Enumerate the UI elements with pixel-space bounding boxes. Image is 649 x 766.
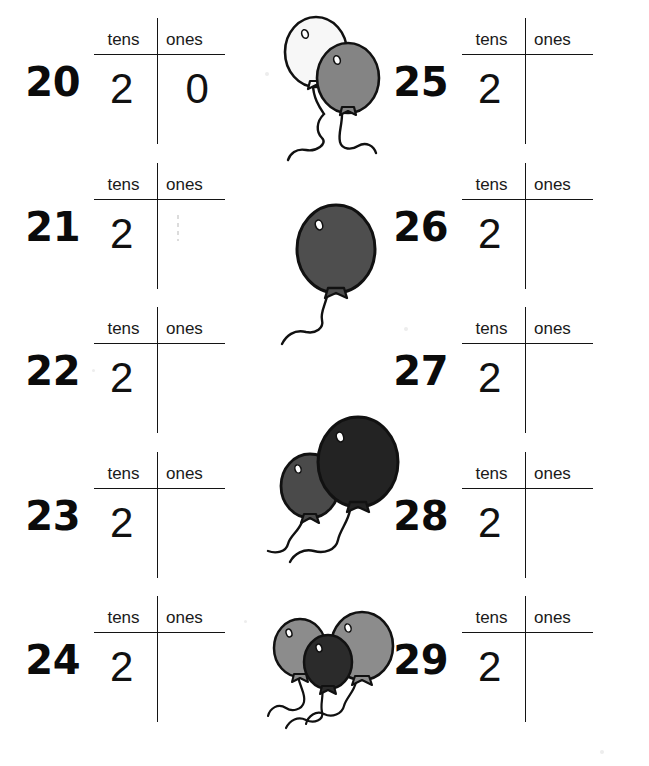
ones-header: ones	[527, 316, 593, 342]
ones-answer[interactable]	[528, 492, 594, 558]
place-value-table: tens ones 2	[462, 596, 593, 722]
place-value-table: tens ones 2	[462, 163, 593, 289]
balloon-trio-illustration	[258, 608, 408, 746]
scan-speckle	[92, 369, 95, 372]
ones-answer[interactable]	[528, 203, 594, 269]
header-rule	[94, 488, 225, 489]
place-value-answers: 2	[462, 58, 593, 124]
place-value-headers: tens ones	[94, 27, 225, 53]
tens-header: tens	[94, 316, 159, 342]
ones-header: ones	[527, 172, 593, 198]
tens-header: tens	[462, 461, 527, 487]
ones-header: ones	[159, 461, 225, 487]
scan-speckle	[244, 620, 247, 623]
scan-speckle	[404, 327, 408, 331]
header-rule	[462, 199, 593, 200]
ones-answer[interactable]	[160, 492, 226, 558]
ones-answer[interactable]	[160, 203, 226, 269]
ones-answer[interactable]	[528, 347, 594, 413]
place-value-headers: tens ones	[94, 316, 225, 342]
place-value-answers: 2	[94, 636, 225, 702]
tens-answer[interactable]: 2	[94, 347, 160, 413]
place-value-table: tens ones 2	[94, 452, 225, 578]
tens-answer[interactable]: 2	[462, 58, 528, 124]
exercise-number: 24	[4, 596, 80, 680]
tens-header: tens	[94, 172, 159, 198]
exercise-number: 22	[4, 307, 80, 391]
tens-answer[interactable]: 2	[94, 492, 160, 558]
tens-answer[interactable]: 2	[94, 58, 160, 124]
ones-answer[interactable]	[160, 636, 226, 702]
tens-answer[interactable]: 2	[462, 347, 528, 413]
tens-header: tens	[462, 172, 527, 198]
place-value-table: tens ones 2	[462, 452, 593, 578]
place-value-table: tens ones 2	[462, 307, 593, 433]
place-value-answers: 2 0	[94, 58, 225, 124]
ones-answer[interactable]	[528, 58, 594, 124]
tens-answer[interactable]: 2	[462, 636, 528, 702]
tens-header: tens	[94, 461, 159, 487]
place-value-table: tens ones 2	[94, 163, 225, 289]
tens-answer[interactable]: 2	[462, 492, 528, 558]
ones-header: ones	[159, 172, 225, 198]
exercise-number: 23	[4, 452, 80, 536]
ones-header: ones	[159, 27, 225, 53]
place-value-headers: tens ones	[462, 172, 593, 198]
place-value-answers: 2	[94, 203, 225, 269]
ones-answer[interactable]: 0	[160, 58, 226, 124]
header-rule	[94, 343, 225, 344]
worksheet-page: 20 tens ones 2 0 21 tens ones 2	[0, 0, 649, 766]
balloon-pair-white-gray-illustration	[272, 10, 402, 165]
exercise-number: 20	[4, 18, 80, 102]
header-rule	[94, 54, 225, 55]
place-value-answers: 2	[94, 347, 225, 413]
ones-answer[interactable]	[528, 636, 594, 702]
tens-header: tens	[94, 27, 159, 53]
tens-answer[interactable]: 2	[462, 203, 528, 269]
scan-speckle	[265, 72, 269, 76]
balloon-single-dark-gray-illustration	[272, 192, 407, 360]
place-value-answers: 2	[462, 203, 593, 269]
tens-header: tens	[462, 27, 527, 53]
ones-header: ones	[527, 27, 593, 53]
exercise-item: 25 tens ones 2	[372, 18, 593, 144]
ones-answer[interactable]	[160, 347, 226, 413]
header-rule	[94, 632, 225, 633]
place-value-headers: tens ones	[462, 605, 593, 631]
exercise-item: 24 tens ones 2	[4, 596, 225, 722]
ones-header: ones	[527, 461, 593, 487]
ones-header: ones	[527, 605, 593, 631]
tens-header: tens	[462, 605, 527, 631]
tens-answer[interactable]: 2	[94, 636, 160, 702]
place-value-answers: 2	[94, 492, 225, 558]
tens-header: tens	[462, 316, 527, 342]
header-rule	[462, 54, 593, 55]
place-value-table: tens ones 2	[94, 307, 225, 433]
exercise-number: 21	[4, 163, 80, 247]
place-value-headers: tens ones	[462, 461, 593, 487]
ones-header: ones	[159, 605, 225, 631]
exercise-item: 22 tens ones 2	[4, 307, 225, 433]
exercise-item: 21 tens ones 2	[4, 163, 225, 289]
place-value-headers: tens ones	[94, 605, 225, 631]
ones-header: ones	[159, 316, 225, 342]
place-value-headers: tens ones	[462, 316, 593, 342]
place-value-table: tens ones 2	[462, 18, 593, 144]
place-value-answers: 2	[462, 347, 593, 413]
place-value-headers: tens ones	[94, 461, 225, 487]
tens-answer[interactable]: 2	[94, 203, 160, 269]
place-value-headers: tens ones	[94, 172, 225, 198]
header-rule	[462, 343, 593, 344]
scan-speckle	[600, 750, 604, 754]
place-value-headers: tens ones	[462, 27, 593, 53]
balloon-pair-gray-black-illustration	[266, 404, 411, 589]
exercise-item: 20 tens ones 2 0	[4, 18, 225, 144]
exercise-item: 23 tens ones 2	[4, 452, 225, 578]
tens-header: tens	[94, 605, 159, 631]
header-rule	[462, 632, 593, 633]
place-value-table: tens ones 2 0	[94, 18, 225, 144]
place-value-answers: 2	[462, 492, 593, 558]
place-value-answers: 2	[462, 636, 593, 702]
header-rule	[94, 199, 225, 200]
header-rule	[462, 488, 593, 489]
